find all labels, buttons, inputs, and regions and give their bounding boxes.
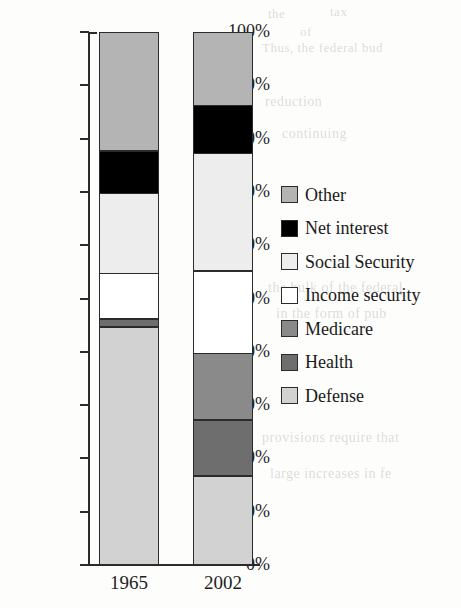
y-tick-mark [80, 351, 89, 353]
legend-item-income-security[interactable]: Income security [281, 279, 461, 313]
legend-item-medicare[interactable]: Medicare [281, 312, 461, 346]
bar-segment-health[interactable] [194, 419, 252, 475]
legend-item-other[interactable]: Other [281, 178, 461, 212]
legend-swatch-icon [281, 354, 298, 371]
y-tick-mark [80, 564, 89, 566]
segment-divider [194, 153, 252, 155]
bar-segment-medicare[interactable] [194, 353, 252, 420]
segment-divider [100, 273, 158, 275]
y-tick-mark [80, 298, 89, 300]
segment-divider [194, 353, 252, 355]
legend-swatch-icon [281, 220, 298, 237]
bar-segment-income-security[interactable] [194, 270, 252, 353]
y-tick-mark [80, 138, 89, 140]
segment-divider [100, 193, 158, 195]
legend-item-social-security[interactable]: Social Security [281, 245, 461, 279]
segment-divider [194, 105, 252, 107]
segment-divider [194, 419, 252, 421]
legend-item-label: Defense [305, 386, 364, 406]
bar-segment-defense[interactable] [194, 475, 252, 565]
stacked-bar-2002[interactable] [193, 32, 253, 565]
figure-page: the tax of Thus, the federal bud reducti… [0, 0, 461, 608]
chart-legend: OtherNet interestSocial SecurityIncome s… [281, 178, 461, 413]
segment-divider [194, 475, 252, 477]
y-tick-mark [80, 84, 89, 86]
bar-segment-net-interest[interactable] [100, 150, 158, 193]
bar-segment-net-interest[interactable] [194, 105, 252, 153]
y-tick-mark [80, 457, 89, 459]
bar-segment-social-security[interactable] [194, 153, 252, 270]
y-tick-mark [80, 191, 89, 193]
bleed-text-3: of [300, 24, 312, 40]
legend-item-defense[interactable]: Defense [281, 379, 461, 413]
legend-item-label: Social Security [305, 252, 414, 272]
legend-item-label: Health [305, 352, 353, 372]
legend-item-label: Net interest [305, 218, 388, 238]
bleed-text-2: tax [330, 4, 347, 20]
legend-swatch-icon [281, 320, 298, 337]
legend-item-label: Income security [305, 285, 420, 305]
segment-divider [100, 318, 158, 320]
legend-item-net-interest[interactable]: Net interest [281, 212, 461, 246]
bleed-text-4: Thus, the federal bud [262, 40, 383, 56]
legend-swatch-icon [281, 287, 298, 304]
y-tick-mark [80, 404, 89, 406]
chart-plot-area: 0%10%20%30%40%50%60%70%80%90%100% 196520… [0, 0, 270, 608]
y-tick-mark [80, 31, 89, 33]
bleed-text-5: reduction [265, 94, 322, 110]
stacked-bar-1965[interactable] [99, 32, 159, 565]
segment-divider [194, 270, 252, 272]
bar-segment-other[interactable] [100, 33, 158, 150]
bar-segment-income-security[interactable] [100, 273, 158, 318]
y-tick-mark [80, 244, 89, 246]
segment-divider [100, 326, 158, 328]
y-tick-mark [80, 511, 89, 513]
legend-item-label: Other [305, 185, 346, 205]
legend-swatch-icon [281, 186, 298, 203]
bar-segment-social-security[interactable] [100, 193, 158, 273]
legend-swatch-icon [281, 387, 298, 404]
legend-item-label: Medicare [305, 319, 373, 339]
x-axis-label-2002: 2002 [178, 572, 268, 594]
bleed-text-9: provisions require that [262, 430, 399, 446]
segment-divider [100, 150, 158, 152]
bleed-text-10: large increases in fe [270, 466, 392, 482]
x-axis-label-1965: 1965 [84, 572, 174, 594]
bleed-text-6: continuing [282, 126, 347, 142]
bar-segment-defense[interactable] [100, 326, 158, 565]
legend-item-health[interactable]: Health [281, 346, 461, 380]
legend-swatch-icon [281, 253, 298, 270]
bleed-text-1: the [268, 6, 285, 22]
bar-segment-other[interactable] [194, 33, 252, 105]
y-axis-top-cap [88, 32, 97, 34]
